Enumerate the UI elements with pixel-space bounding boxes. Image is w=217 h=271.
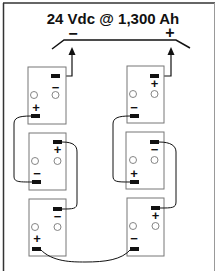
terminal-sign: − <box>130 100 138 115</box>
terminal-icon <box>32 247 41 251</box>
terminal-sign: + <box>54 142 62 157</box>
battery-r3: + − <box>127 198 164 256</box>
terminal-sign: − <box>54 209 62 224</box>
terminal-icon <box>32 180 41 184</box>
terminal-sign: − <box>151 142 159 157</box>
battery-wiring-diagram: 24 Vdc @ 1,300 Ah − + − + + − − <box>0 0 217 271</box>
battery-l3: − + <box>29 199 66 256</box>
terminal-icon <box>51 74 60 78</box>
diagram-title: 24 Vdc @ 1,300 Ah <box>47 10 179 27</box>
terminal-icon <box>130 114 139 118</box>
terminal-sign: + <box>152 208 160 223</box>
terminal-sign: + <box>32 100 40 115</box>
bus-positive-label: + <box>165 24 174 41</box>
terminal-sign: − <box>33 166 41 181</box>
terminal-icon <box>130 180 139 184</box>
terminal-sign: + <box>151 76 159 91</box>
terminal-icon <box>130 247 139 251</box>
battery-l1: − + <box>28 67 66 124</box>
battery-l2: + − <box>29 133 66 190</box>
terminal-sign: − <box>130 231 138 246</box>
terminal-sign: + <box>130 166 138 181</box>
battery-r1: + − <box>127 66 164 123</box>
battery-r2: − + <box>126 132 164 189</box>
terminal-icon <box>31 114 40 118</box>
terminal-sign: + <box>33 231 41 246</box>
